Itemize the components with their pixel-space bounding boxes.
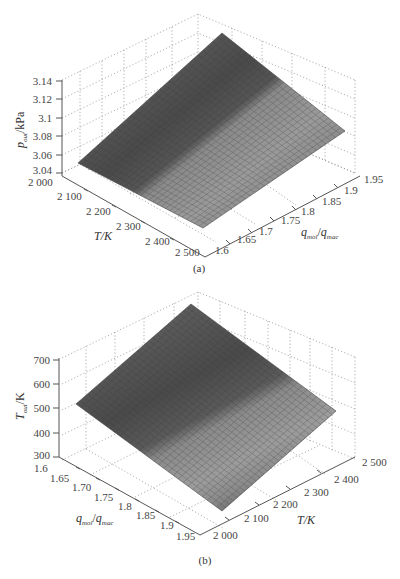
b-x-tick: 1.6 [34, 462, 48, 474]
a-z-axis-label: pout/kPa [13, 111, 29, 149]
a-x-axis-label: T/K [94, 229, 113, 243]
b-z-tick: 300 [34, 449, 51, 461]
b-y-tick: 2 500 [362, 456, 387, 468]
b-x-tick: 1.75 [94, 491, 114, 503]
a-x-tick: 2 300 [116, 220, 141, 232]
b-x-tick: 1.8 [118, 500, 132, 512]
a-z-tick: 3.14 [33, 75, 53, 87]
b-z-axis-label: Tout/K [13, 392, 29, 420]
a-y-tick: 1.7 [259, 225, 273, 237]
a-x-tick: 2 500 [175, 246, 200, 258]
b-z-tick: 400 [34, 427, 51, 439]
caption-b: (b) [199, 554, 212, 567]
b-x-tick: 1.70 [72, 481, 92, 493]
a-y-tick: 1.65 [237, 233, 257, 245]
a-y-tick: 1.8 [301, 205, 315, 217]
b-y-tick: 2 300 [304, 486, 329, 498]
a-z-tick: 3.1 [38, 112, 52, 124]
chart-a-surface [78, 33, 345, 228]
a-x-tick: 2 200 [86, 205, 111, 217]
b-y-axis-label: T/K [297, 513, 316, 527]
a-z-tick: 3.04 [33, 164, 53, 176]
chart-b-z-ticks: 700 600 500 400 300 [34, 354, 60, 461]
caption-a: (a) [193, 262, 206, 275]
a-y-tick: 1.95 [364, 173, 384, 185]
b-x-tick: 1.65 [50, 472, 70, 484]
figure: 3.14 3.12 3.1 3.08 3.06 3.04 pout/kPa 2 … [0, 0, 400, 579]
b-y-tick: 2 100 [244, 512, 269, 524]
a-y-tick: 1.85 [322, 195, 342, 207]
b-x-tick: 1.85 [136, 509, 156, 521]
b-y-tick: 2 000 [213, 529, 238, 541]
a-z-tick: 3.08 [33, 130, 53, 142]
chart-a: 3.14 3.12 3.1 3.08 3.06 3.04 pout/kPa 2 … [13, 14, 384, 275]
chart-b-surface [76, 304, 336, 511]
b-y-tick: 2 400 [334, 473, 359, 485]
a-z-tick: 3.06 [33, 149, 53, 161]
b-x-tick: 1.95 [176, 530, 196, 542]
b-y-tick: 2 200 [273, 498, 298, 510]
a-y-tick: 1.75 [281, 214, 301, 226]
b-z-tick: 600 [34, 378, 51, 390]
chart-a-z-ticks: 3.14 3.12 3.1 3.08 3.06 3.04 [33, 75, 62, 176]
a-z-tick: 3.12 [33, 93, 52, 105]
b-x-axis-label: qmol/qmac [76, 511, 114, 527]
a-x-tick: 2 400 [145, 235, 170, 247]
a-y-tick: 1.6 [215, 244, 229, 256]
a-x-tick: 2 100 [57, 190, 82, 202]
b-z-tick: 500 [34, 402, 51, 414]
chart-b: 700 600 500 400 300 Tout/K 1.6 1.65 1.70… [13, 292, 387, 567]
b-x-tick: 1.9 [160, 519, 174, 531]
a-y-tick: 1.9 [344, 184, 358, 196]
a-x-tick: 2 000 [28, 176, 53, 188]
a-y-axis-label: qmol/qmac [301, 225, 339, 241]
b-z-tick: 700 [34, 354, 51, 366]
